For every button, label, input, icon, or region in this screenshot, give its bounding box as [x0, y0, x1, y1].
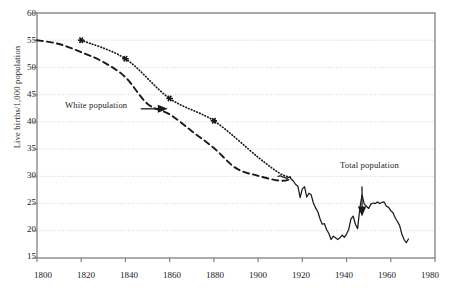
data-series: [37, 38, 408, 243]
birth-rate-chart: Live births/1,000 population 60 55 50 45…: [0, 0, 451, 292]
plot-area: [0, 0, 451, 292]
gridlines: [37, 13, 435, 231]
plot-frame: [37, 13, 435, 258]
